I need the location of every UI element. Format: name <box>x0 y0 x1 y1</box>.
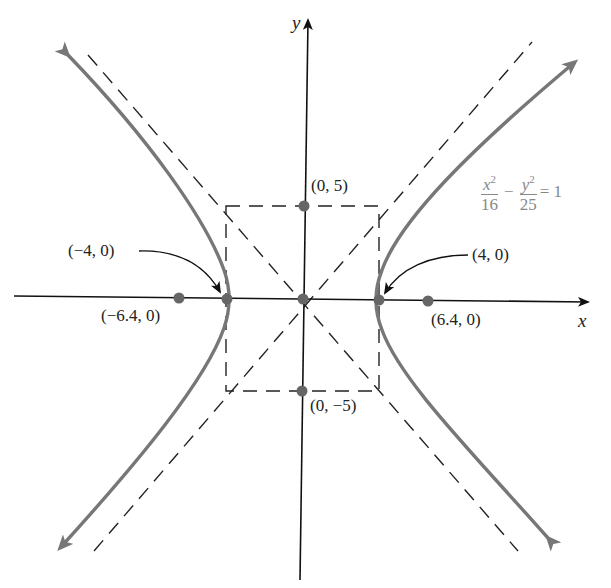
x-axis-label: x <box>578 310 586 332</box>
y-axis-label: y <box>292 12 300 34</box>
eq-operator: − <box>504 182 514 202</box>
eq-x-var: x <box>483 175 491 194</box>
label-focus-right: (6.4, 0) <box>431 310 481 330</box>
hyperbola-equation: x2 16 − y2 25 = 1 <box>478 170 562 215</box>
label-covertex-bottom: (0, −5) <box>310 396 356 416</box>
point-focus-right <box>423 296 434 307</box>
pointer-vertex-left <box>139 251 220 292</box>
point-center <box>298 294 309 305</box>
point-covertex-bottom <box>297 386 308 397</box>
point-covertex-top <box>299 201 310 212</box>
hyperbola-diagram <box>0 0 611 588</box>
pointer-vertex-right <box>385 255 468 293</box>
point-vertex-right <box>374 295 385 306</box>
eq-x-exp: 2 <box>491 173 497 185</box>
point-focus-left <box>174 293 185 304</box>
label-vertex-right: (4, 0) <box>472 245 509 265</box>
point-vertex-left <box>222 294 233 305</box>
label-covertex-top: (0, 5) <box>311 176 348 196</box>
hyperbola-left-branch <box>60 55 229 548</box>
eq-y-exp: 2 <box>529 173 535 185</box>
eq-y-den: 25 <box>520 195 537 215</box>
label-focus-left: (−6.4, 0) <box>101 306 160 326</box>
fraction-y: y2 25 <box>520 170 537 215</box>
eq-x-den: 16 <box>481 195 498 215</box>
asymptote-positive-slope <box>94 42 532 551</box>
eq-rhs: = 1 <box>540 182 562 202</box>
fraction-x: x2 16 <box>481 170 498 215</box>
label-vertex-left: (−4, 0) <box>68 241 114 261</box>
